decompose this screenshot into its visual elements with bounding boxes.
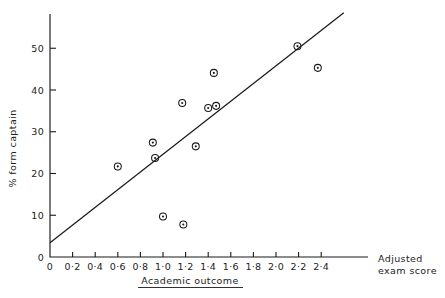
data-point [114, 163, 121, 170]
axes [50, 14, 368, 257]
data-point [179, 99, 186, 106]
data-point [205, 104, 212, 111]
data-point [213, 102, 220, 109]
data-point [180, 221, 187, 228]
x-axis-tick-label: 1·8 [245, 261, 261, 272]
x-axis-tick-label: 0 [47, 261, 53, 272]
x-axis-secondary-label-line2: exam score [378, 265, 437, 276]
x-axis-tick-label: 1·6 [223, 261, 239, 272]
x-axis-tick-label: 2·4 [313, 261, 329, 272]
y-axis-tick-label: 40 [31, 85, 44, 96]
y-axis-tick-label: 50 [31, 43, 44, 54]
x-axis-tick-label: 1·0 [155, 261, 171, 272]
x-axis-secondary-label-line1: Adjusted [378, 253, 423, 264]
regression-line [50, 13, 344, 243]
y-axis-tick-label: 30 [31, 126, 44, 137]
x-axis-tick-label: 2·2 [291, 261, 307, 272]
y-axis-tick-label: 10 [31, 210, 44, 221]
x-axis-tick-label: 1·2 [178, 261, 194, 272]
x-axis-tick-label: 0·2 [65, 261, 81, 272]
data-point [210, 69, 217, 76]
x-axis-tick-label: 0·4 [87, 261, 103, 272]
x-axis-tick-label: 1·4 [200, 261, 216, 272]
data-point [192, 143, 199, 150]
data-point [160, 213, 167, 220]
plot-canvas: 00·20·40·60·81·01·21·41·61·82·02·22·4010… [0, 0, 445, 298]
x-axis-tick-label: 0·8 [132, 261, 148, 272]
x-axis-title: Academic outcome [141, 275, 238, 286]
y-axis-tick-label: 20 [31, 168, 44, 179]
data-point [314, 64, 321, 71]
x-axis-tick-label: 0·6 [110, 261, 126, 272]
y-axis-tick-label: 0 [38, 252, 44, 263]
x-axis-tick-label: 2·0 [268, 261, 284, 272]
y-axis-title: % form captain [7, 109, 18, 187]
scatter-plot-figure: 00·20·40·60·81·01·21·41·61·82·02·22·4010… [0, 0, 445, 298]
data-point [149, 139, 156, 146]
